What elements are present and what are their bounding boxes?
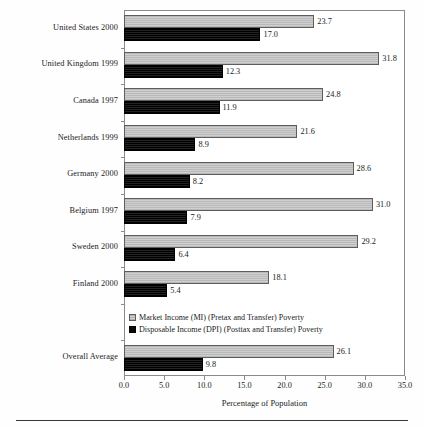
x-axis-tick: [244, 376, 245, 380]
bar-mi: [124, 125, 297, 138]
category-label: Belgium 1997: [0, 206, 118, 215]
legend-label-mi: Market Income (MI) (Pretax and Transfer)…: [139, 312, 304, 324]
bar-value-dpi: 8.9: [198, 138, 208, 151]
bar-group: Sweden 200029.26.4: [0, 230, 423, 267]
bar-value-mi: 28.6: [357, 162, 372, 175]
bar-value-dpi: 6.4: [178, 248, 188, 261]
x-axis-tick-label: 10.0: [197, 381, 212, 390]
bar-mi: [124, 235, 358, 248]
x-axis-tick-label: 20.0: [277, 381, 292, 390]
legend-swatch-dpi-icon: [129, 326, 136, 333]
x-axis: 0.05.010.015.020.025.030.035.0: [124, 376, 405, 377]
bar-group: Canada 199724.811.9: [0, 83, 423, 120]
bar-value-mi: 23.7: [317, 15, 332, 28]
category-label: United States 2000: [0, 23, 118, 32]
bar-value-mi: 31.0: [376, 198, 391, 211]
x-axis-tick-label: 15.0: [237, 381, 252, 390]
x-axis-tick: [405, 376, 406, 380]
bar-group: Overall Average26.19.8: [0, 339, 423, 376]
bar-dpi: [124, 358, 203, 371]
legend-item-mi: Market Income (MI) (Pretax and Transfer)…: [129, 312, 323, 324]
bar-dpi: [124, 248, 175, 261]
x-axis-tick: [365, 376, 366, 380]
bar-group: United States 200023.717.0: [0, 10, 423, 47]
chart-legend: Market Income (MI) (Pretax and Transfer)…: [129, 312, 323, 335]
legend-swatch-mi-icon: [129, 314, 136, 321]
legend-label-dpi: Disposable Income (DPI) (Posttax and Tra…: [139, 324, 323, 336]
category-label: Germany 2000: [0, 169, 118, 178]
bar-mi: [124, 198, 373, 211]
bar-mi: [124, 52, 379, 65]
bar-group: Germany 200028.68.2: [0, 156, 423, 193]
bar-value-dpi: 5.4: [170, 284, 180, 297]
bar-group: Belgium 199731.07.9: [0, 193, 423, 230]
x-axis-tick: [325, 376, 326, 380]
bar-dpi: [124, 28, 260, 41]
bar-dpi: [124, 101, 220, 114]
category-label: Finland 2000: [0, 279, 118, 288]
bar-mi: [124, 345, 334, 358]
x-axis-tick: [204, 376, 205, 380]
bar-value-dpi: 7.9: [190, 211, 200, 224]
chart-page: United States 200023.717.0United Kingdom…: [0, 0, 423, 428]
bar-value-mi: 29.2: [361, 235, 376, 248]
bar-mi: [124, 162, 354, 175]
x-axis-tick-label: 25.0: [317, 381, 332, 390]
x-axis-title: Percentage of Population: [124, 398, 405, 408]
bar-mi: [124, 271, 269, 284]
category-label: Overall Average: [0, 352, 118, 361]
bar-group: Netherlands 199921.68.9: [0, 120, 423, 157]
category-label: United Kingdom 1999: [0, 59, 118, 68]
bar-value-dpi: 11.9: [223, 101, 237, 114]
bar-value-dpi: 17.0: [263, 28, 278, 41]
x-axis-tick: [285, 376, 286, 380]
bar-group: Finland 200018.15.4: [0, 266, 423, 303]
x-axis-tick-label: 5.0: [159, 381, 169, 390]
category-label: Sweden 2000: [0, 242, 118, 251]
x-axis-tick: [164, 376, 165, 380]
bar-value-dpi: 12.3: [226, 65, 241, 78]
bar-dpi: [124, 284, 167, 297]
category-label: Netherlands 1999: [0, 133, 118, 142]
bar-dpi: [124, 138, 195, 151]
bar-value-mi: 24.8: [326, 88, 341, 101]
bar-group: United Kingdom 199931.812.3: [0, 47, 423, 84]
bar-mi: [124, 15, 314, 28]
legend-item-dpi: Disposable Income (DPI) (Posttax and Tra…: [129, 324, 323, 336]
bar-value-mi: 31.8: [382, 52, 397, 65]
bar-dpi: [124, 211, 187, 224]
x-axis-tick: [124, 376, 125, 380]
bar-dpi: [124, 175, 190, 188]
x-axis-tick-label: 30.0: [358, 381, 373, 390]
x-axis-tick-label: 0.0: [119, 381, 129, 390]
bar-value-mi: 18.1: [272, 271, 287, 284]
bar-value-mi: 21.6: [300, 125, 315, 138]
x-axis-tick-label: 35.0: [398, 381, 413, 390]
bar-dpi: [124, 65, 223, 78]
category-label: Canada 1997: [0, 96, 118, 105]
bar-value-dpi: 9.8: [206, 358, 216, 371]
bar-mi: [124, 88, 323, 101]
bar-value-dpi: 8.2: [193, 175, 203, 188]
footer-divider: [16, 420, 408, 421]
y-axis-tick: [121, 304, 125, 305]
bar-value-mi: 26.1: [337, 345, 352, 358]
